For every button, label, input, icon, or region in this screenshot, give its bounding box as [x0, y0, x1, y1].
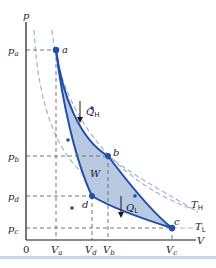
direction-dot-bc: [133, 194, 137, 198]
isotherm-th-label: TH: [191, 199, 203, 212]
point-b-label: b: [113, 147, 119, 158]
carnot-pv-diagram: p V 0 pa pb pd pc Va Vd Vb Vc a b c d QH…: [0, 0, 216, 268]
work-label: W: [90, 168, 101, 179]
origin-label: 0: [23, 244, 29, 255]
bottom-divider: [0, 256, 216, 259]
heat-in-arrow-icon: [77, 101, 83, 123]
y-tick-pa: pa: [8, 45, 19, 58]
y-tick-pc: pc: [8, 223, 18, 236]
point-b: [105, 153, 111, 159]
point-a: [53, 47, 59, 53]
direction-dot-cd: [70, 206, 74, 210]
y-axis-label: p: [23, 10, 30, 21]
point-d: [89, 193, 95, 199]
y-tick-pb: pb: [8, 151, 19, 164]
x-axis-label: V: [197, 235, 206, 246]
point-d-label: d: [82, 199, 88, 210]
point-c-label: c: [174, 216, 180, 227]
y-tick-pd: pd: [8, 191, 19, 204]
direction-dot-da: [66, 138, 70, 142]
heat-in-label: QH: [86, 106, 99, 119]
isotherm-tl-label: TL: [195, 221, 206, 234]
point-a-label: a: [62, 44, 68, 55]
